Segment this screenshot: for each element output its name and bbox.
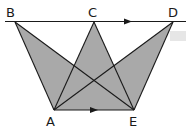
parallel-arrow-top-icon — [124, 19, 132, 25]
label-C: C — [88, 5, 97, 20]
label-E: E — [129, 114, 137, 129]
label-D: D — [168, 5, 178, 20]
label-A: A — [46, 114, 55, 129]
scan-artifact — [170, 31, 186, 41]
geometry-diagram: B C D A E — [0, 0, 186, 129]
label-B: B — [6, 5, 15, 20]
